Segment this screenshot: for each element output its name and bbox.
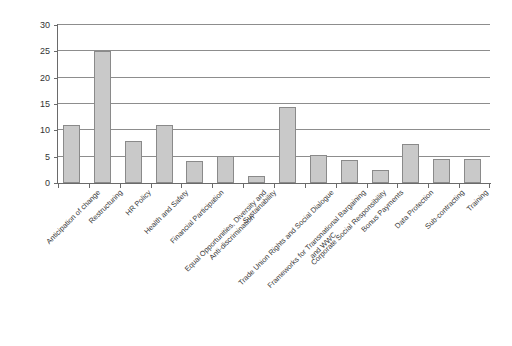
x-axis-labels: Anticipation of changeRestructuringHR Po… bbox=[0, 188, 512, 346]
y-tick-mark-20 bbox=[54, 78, 58, 79]
y-tick-label-30: 30 bbox=[10, 21, 50, 30]
y-tick-mark-25 bbox=[54, 51, 58, 52]
bar bbox=[125, 141, 142, 183]
y-tick-mark-5 bbox=[54, 157, 58, 158]
bar bbox=[372, 170, 389, 183]
bar bbox=[156, 125, 173, 183]
y-tick-label-10: 10 bbox=[10, 126, 50, 135]
y-tick-label-25: 25 bbox=[10, 47, 50, 56]
y-tick-label-5: 5 bbox=[10, 153, 50, 162]
y-tick-label-20: 20 bbox=[10, 74, 50, 83]
y-tick-mark-15 bbox=[54, 104, 58, 105]
bar bbox=[63, 125, 80, 183]
bar bbox=[402, 144, 419, 184]
bar bbox=[310, 155, 327, 183]
y-tick-mark-10 bbox=[54, 130, 58, 131]
x-axis-label: Training bbox=[465, 188, 490, 213]
y-tick-label-15: 15 bbox=[10, 100, 50, 109]
plot-area bbox=[58, 25, 490, 183]
bar bbox=[217, 156, 234, 183]
bar bbox=[279, 107, 296, 183]
bar bbox=[94, 51, 111, 183]
y-tick-mark-30 bbox=[54, 25, 58, 26]
bar bbox=[248, 176, 265, 183]
bar-chart: 051015202530 Anticipation of changeRestr… bbox=[0, 0, 512, 346]
y-tick-label-0: 0 bbox=[10, 179, 50, 188]
bar bbox=[186, 161, 203, 183]
bars bbox=[58, 25, 490, 183]
bar bbox=[464, 159, 481, 183]
bar bbox=[433, 159, 450, 183]
bar bbox=[341, 160, 358, 183]
x-axis-label: HR Policy bbox=[123, 188, 152, 217]
